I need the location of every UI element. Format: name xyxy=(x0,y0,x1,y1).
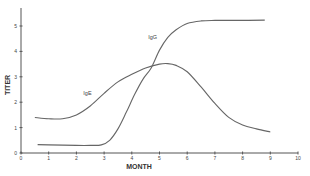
series-label-igg: IgG xyxy=(148,34,157,40)
line-chart: 012345678910 012345 IgEIgG MONTH TITER xyxy=(0,0,310,176)
series-label-ige: IgE xyxy=(83,90,92,96)
x-tick-label: 1 xyxy=(47,155,50,161)
y-axis-title: TITER xyxy=(4,75,11,95)
x-tick-label: 3 xyxy=(103,155,106,161)
y-tick-label: 2 xyxy=(14,99,17,105)
x-tick-label: 6 xyxy=(186,155,189,161)
y-tick-label: 4 xyxy=(14,48,17,54)
x-tick-label: 5 xyxy=(158,155,161,161)
x-tick-label: 0 xyxy=(20,155,23,161)
x-axis-title: MONTH xyxy=(126,163,152,170)
series-group: IgEIgG xyxy=(35,20,270,145)
y-tick-label: 3 xyxy=(14,74,17,80)
x-tick-label: 8 xyxy=(241,155,244,161)
x-tick-label: 7 xyxy=(214,155,217,161)
y-tick-label: 5 xyxy=(14,23,17,29)
axes xyxy=(21,8,298,153)
y-tick-label: 1 xyxy=(14,125,17,131)
y-tick-label: 0 xyxy=(14,150,17,156)
series-line-ige xyxy=(35,63,270,131)
x-tick-label: 2 xyxy=(75,155,78,161)
x-tick-label: 10 xyxy=(295,155,301,161)
x-tick-label: 9 xyxy=(269,155,272,161)
x-tick-label: 4 xyxy=(130,155,133,161)
